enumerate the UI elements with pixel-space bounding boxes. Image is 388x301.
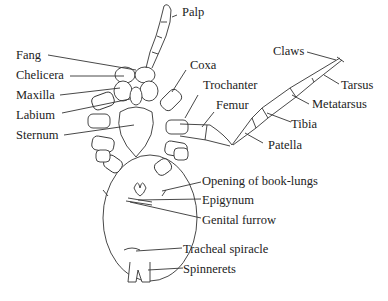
label-metatarsus: Metatarsus xyxy=(312,98,367,111)
label-femur: Femur xyxy=(216,99,249,112)
label-trochanter: Trochanter xyxy=(203,79,257,92)
spider-anatomy-diagram: Palp Fang Chelicera Maxilla Labium Stern… xyxy=(0,0,388,301)
label-fang: Fang xyxy=(16,49,41,62)
label-coxa: Coxa xyxy=(190,59,216,72)
label-chelicera: Chelicera xyxy=(16,69,64,82)
label-book-lungs: Opening of book-lungs xyxy=(202,175,318,188)
label-claws: Claws xyxy=(273,45,304,58)
label-maxilla: Maxilla xyxy=(16,89,55,102)
label-tibia: Tibia xyxy=(291,118,317,131)
label-sternum: Sternum xyxy=(16,129,58,142)
label-labium: Labium xyxy=(16,109,55,122)
label-epigynum: Epigynum xyxy=(202,194,254,207)
label-patella: Patella xyxy=(268,139,302,152)
label-genital-furrow: Genital furrow xyxy=(202,214,276,227)
label-palp: Palp xyxy=(182,6,204,19)
label-spinnerets: Spinnerets xyxy=(183,263,236,276)
label-tracheal-spiracle: Tracheal spiracle xyxy=(183,243,268,256)
label-tarsus: Tarsus xyxy=(341,79,373,92)
